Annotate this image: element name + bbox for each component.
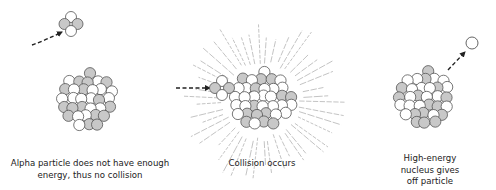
caption-line: Collision occurs <box>212 158 312 170</box>
target-nucleus-icon <box>57 68 118 131</box>
trajectory-arrow-icon <box>32 32 62 45</box>
caption-line: nucleus gives <box>390 165 470 177</box>
caption-no-collision: Alpha particle does not have enough ener… <box>0 158 180 181</box>
panel-collision <box>176 24 345 178</box>
alpha-particle-icon <box>59 12 83 37</box>
caption-line: energy, thus no collision <box>0 170 180 182</box>
caption-line: Alpha particle does not have enough <box>0 158 180 170</box>
compound-nucleus-icon <box>229 66 297 129</box>
emitted-particle-icon <box>466 37 478 49</box>
caption-line: High-energy <box>390 153 470 165</box>
excited-nucleus-icon <box>393 66 452 129</box>
emission-arrow-icon <box>448 52 465 70</box>
caption-line: off particle <box>390 176 470 188</box>
caption-collision: Collision occurs <box>212 158 312 170</box>
caption-particle-emission: High-energy nucleus gives off particle <box>390 153 470 188</box>
panel-particle-emission <box>393 37 478 128</box>
panel-no-collision <box>32 12 118 131</box>
